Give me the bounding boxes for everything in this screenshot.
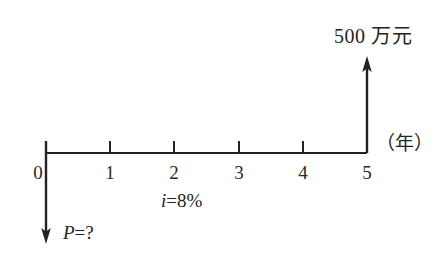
tick-label-0: 0 [26, 163, 50, 182]
present-value-query: =? [75, 222, 94, 243]
interest-rate-label: i=8% [161, 191, 202, 210]
time-unit-label: （年） [376, 134, 433, 153]
cash-flow-diagram: 500 万元 （年） 0 1 2 3 4 5 i=8% P=? [0, 0, 442, 257]
present-value-label: P=? [63, 223, 94, 242]
present-value-variable: P [63, 222, 75, 243]
tick-label-4: 4 [291, 163, 315, 182]
future-value-label: 500 万元 [334, 26, 412, 46]
tick-label-2: 2 [162, 163, 186, 182]
tick-label-3: 3 [227, 163, 251, 182]
tick-label-5: 5 [355, 163, 379, 182]
interest-rate-value: =8% [166, 190, 202, 211]
tick-label-1: 1 [98, 163, 122, 182]
